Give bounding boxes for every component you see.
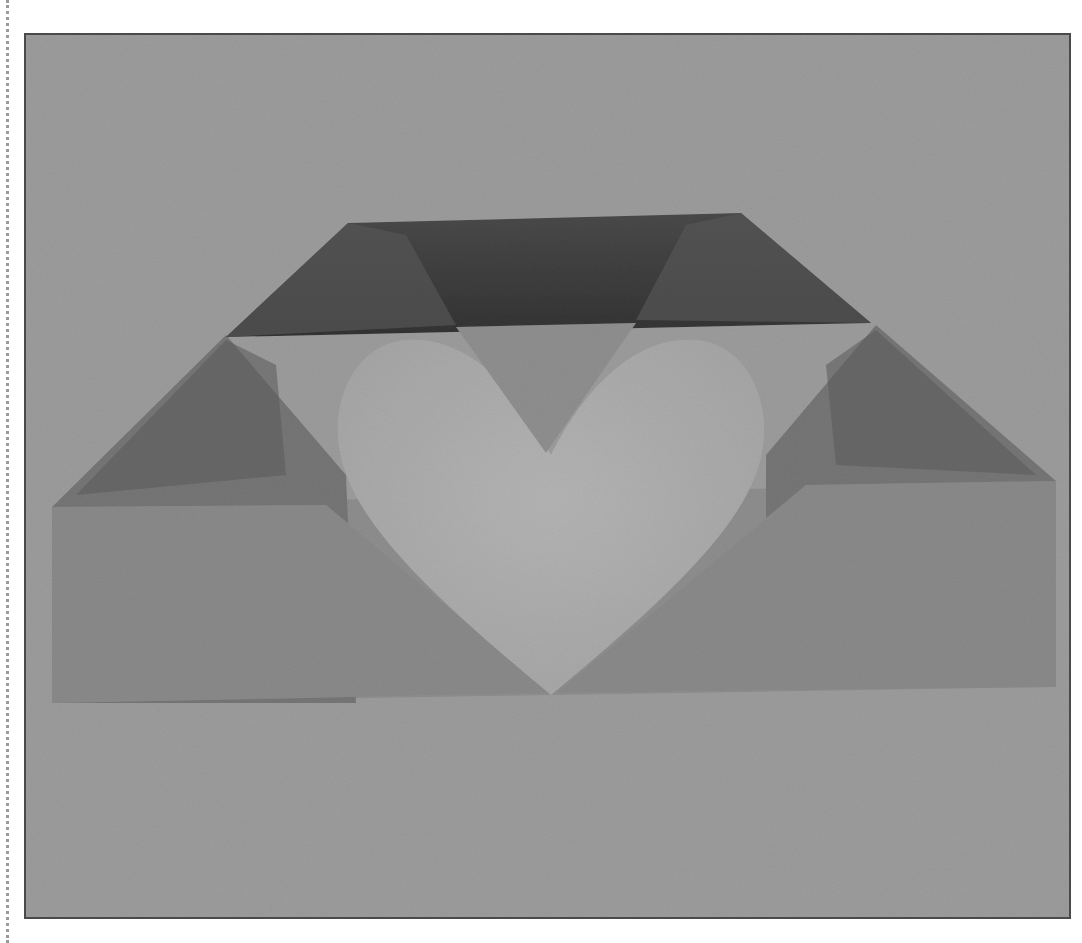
folded-paper-heart-illustration bbox=[26, 35, 1071, 919]
photo-frame bbox=[24, 33, 1071, 919]
dotted-page-edge bbox=[6, 0, 9, 943]
